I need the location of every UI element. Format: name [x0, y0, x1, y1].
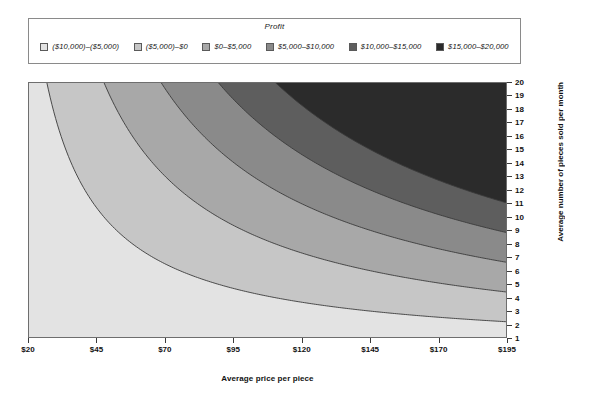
- y-axis-tick-label: 13: [515, 172, 524, 181]
- y-axis-tick-label: 20: [515, 78, 524, 87]
- legend-color-swatch: [266, 43, 274, 51]
- x-axis-tick: [28, 338, 29, 343]
- legend-item[interactable]: ($10,000)–($5,000): [40, 42, 119, 51]
- y-axis-tick-label: 2: [515, 320, 519, 329]
- x-axis-tick-label: $170: [430, 345, 448, 354]
- x-axis-title: Average price per piece: [28, 374, 507, 383]
- y-axis-tick-label: 3: [515, 307, 519, 316]
- y-axis: 1234567891011121314151617181920: [507, 82, 533, 338]
- x-axis: $20$45$70$95$120$145$170$195: [28, 338, 507, 368]
- contour-chart-figure: Profit ($10,000)–($5,000)($5,000)–$0$0–$…: [0, 0, 596, 408]
- y-axis-tick: [507, 230, 512, 231]
- legend-item[interactable]: ($5,000)–$0: [134, 42, 188, 51]
- contour-plot-svg: [28, 82, 507, 338]
- x-axis-tick-label: $20: [21, 345, 34, 354]
- x-axis-tick-label: $95: [227, 345, 240, 354]
- legend-color-swatch: [134, 43, 142, 51]
- legend-item[interactable]: $0–$5,000: [202, 42, 251, 51]
- x-axis-tick: [302, 338, 303, 343]
- y-axis-tick: [507, 257, 512, 258]
- y-axis-tick-label: 10: [515, 212, 524, 221]
- legend-item[interactable]: $5,000–$10,000: [266, 42, 334, 51]
- y-axis-tick-label: 18: [515, 104, 524, 113]
- x-axis-tick-label: $45: [90, 345, 103, 354]
- y-axis-tick: [507, 325, 512, 326]
- y-axis-tick: [507, 190, 512, 191]
- x-axis-tick-label: $70: [158, 345, 171, 354]
- legend-item-label: ($5,000)–$0: [146, 42, 188, 51]
- x-axis-tick: [233, 338, 234, 343]
- legend-color-swatch: [202, 43, 210, 51]
- legend-item-label: $15,000–$20,000: [448, 42, 509, 51]
- y-axis-tick-label: 8: [515, 239, 519, 248]
- y-axis-tick-label: 19: [515, 91, 524, 100]
- y-axis-tick: [507, 136, 512, 137]
- y-axis-title-wrapper: Average number of pieces sold per month: [556, 82, 570, 338]
- y-axis-tick: [507, 82, 512, 83]
- legend-item-label: $10,000–$15,000: [361, 42, 422, 51]
- legend-item-label: ($10,000)–($5,000): [52, 42, 119, 51]
- y-axis-tick: [507, 149, 512, 150]
- legend-color-swatch: [436, 43, 444, 51]
- x-axis-tick: [165, 338, 166, 343]
- y-axis-tick-label: 11: [515, 199, 523, 208]
- plot-area: [28, 82, 507, 338]
- y-axis-tick: [507, 217, 512, 218]
- y-axis-tick-label: 16: [515, 131, 524, 140]
- x-axis-tick-label: $120: [293, 345, 311, 354]
- legend-item[interactable]: $15,000–$20,000: [436, 42, 509, 51]
- legend-color-swatch: [349, 43, 357, 51]
- y-axis-tick-label: 6: [515, 266, 519, 275]
- legend-item-label: $5,000–$10,000: [278, 42, 334, 51]
- legend-item-label: $0–$5,000: [214, 42, 251, 51]
- y-axis-tick: [507, 163, 512, 164]
- chart-legend: Profit ($10,000)–($5,000)($5,000)–$0$0–$…: [28, 18, 521, 64]
- y-axis-tick: [507, 203, 512, 204]
- legend-item-list: ($10,000)–($5,000)($5,000)–$0$0–$5,000$5…: [29, 42, 520, 51]
- x-axis-tick-label: $145: [361, 345, 379, 354]
- y-axis-tick-label: 1: [515, 334, 519, 343]
- y-axis-tick: [507, 244, 512, 245]
- y-axis-tick-label: 12: [515, 185, 524, 194]
- legend-item[interactable]: $10,000–$15,000: [349, 42, 422, 51]
- legend-color-swatch: [40, 43, 48, 51]
- y-axis-tick: [507, 95, 512, 96]
- y-axis-tick-label: 9: [515, 226, 519, 235]
- y-axis-tick: [507, 122, 512, 123]
- y-axis-tick: [507, 271, 512, 272]
- y-axis-tick-label: 5: [515, 280, 519, 289]
- y-axis-tick: [507, 109, 512, 110]
- y-axis-tick: [507, 298, 512, 299]
- y-axis-tick-label: 14: [515, 158, 524, 167]
- y-axis-tick: [507, 311, 512, 312]
- x-axis-tick-label: $195: [498, 345, 516, 354]
- y-axis-tick: [507, 176, 512, 177]
- x-axis-tick: [370, 338, 371, 343]
- legend-title: Profit: [29, 22, 520, 31]
- x-axis-tick: [439, 338, 440, 343]
- y-axis-tick-label: 17: [515, 118, 524, 127]
- y-axis-tick: [507, 338, 512, 339]
- y-axis-tick-label: 7: [515, 253, 519, 262]
- y-axis-tick-label: 4: [515, 293, 519, 302]
- x-axis-tick: [96, 338, 97, 343]
- y-axis-tick-label: 15: [515, 145, 524, 154]
- y-axis-title: Average number of pieces sold per month: [556, 82, 565, 242]
- y-axis-tick: [507, 284, 512, 285]
